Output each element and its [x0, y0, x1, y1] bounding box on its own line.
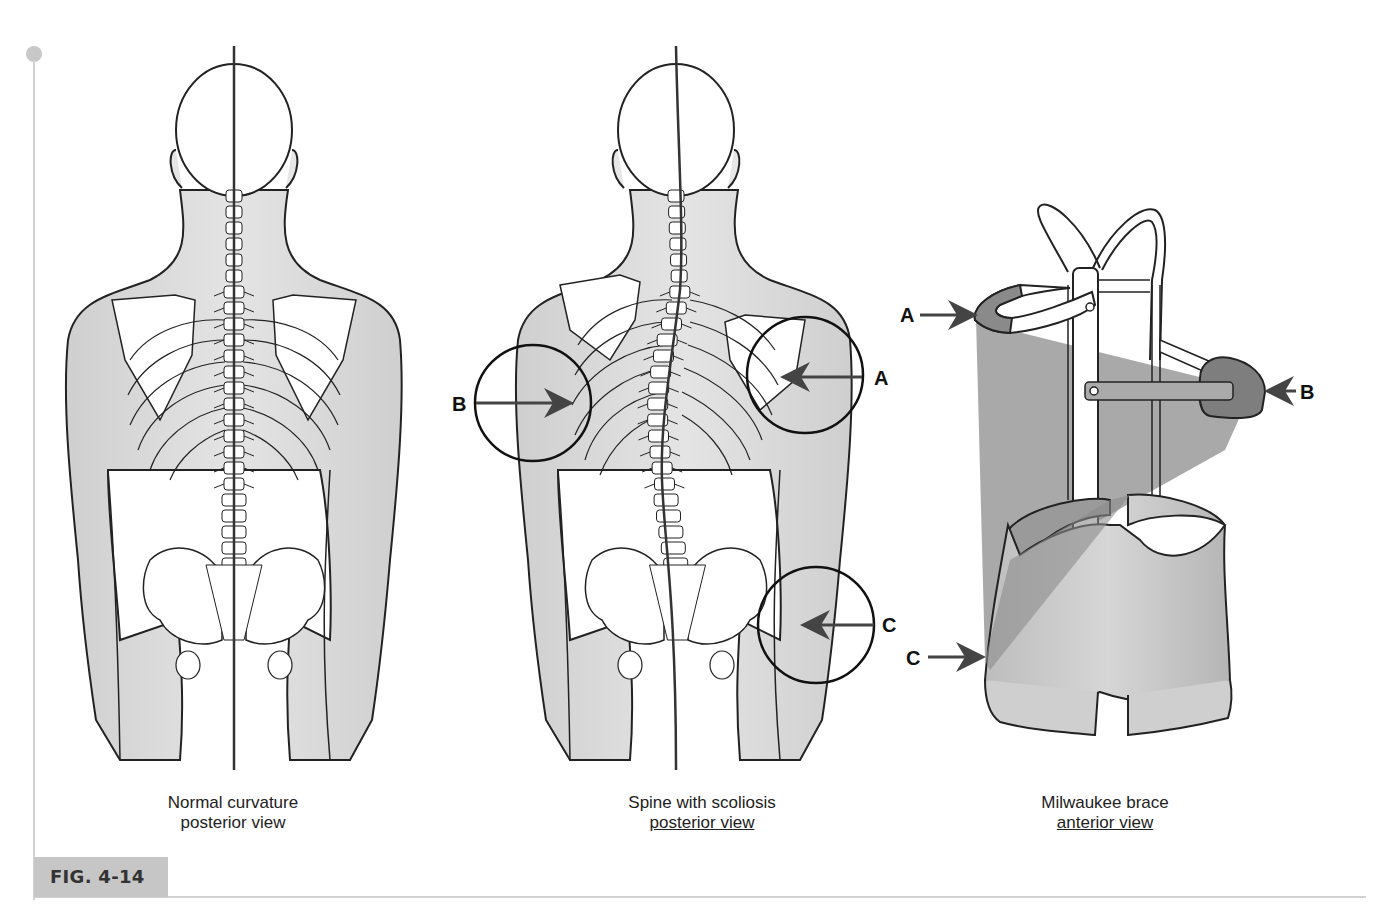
vertebra — [671, 254, 687, 266]
figure-number-label: FIG. 4-14 — [34, 857, 168, 897]
caption-scoliosis: Spine with scoliosis posterior view — [592, 793, 812, 833]
brace-label-c: C — [906, 647, 920, 669]
illustration-canvas: B A C — [0, 0, 1388, 916]
marker-label-c: C — [882, 614, 896, 636]
caption-normal: Normal curvature posterior view — [128, 793, 338, 833]
vertebra — [654, 478, 674, 490]
vertebra — [662, 318, 682, 330]
caption-brace: Milwaukee brace anterior view — [1000, 793, 1210, 833]
milwaukee-brace-figure: A B C — [900, 205, 1314, 735]
marker-label-b: B — [452, 393, 466, 415]
vertebra — [648, 430, 668, 442]
scoliosis-spine-figure: B A C — [452, 46, 896, 770]
caption-scoliosis-view: posterior view — [592, 813, 812, 833]
caption-brace-view: anterior view — [1000, 813, 1210, 833]
normal-spine-figure — [66, 46, 402, 770]
marker-label-a: A — [874, 367, 888, 389]
vertebra — [671, 270, 687, 282]
vertebra — [659, 526, 683, 538]
brace-label-b: B — [1300, 381, 1314, 403]
vertebra — [670, 238, 686, 250]
caption-normal-view: posterior view — [128, 813, 338, 833]
caption-normal-title: Normal curvature — [128, 793, 338, 813]
vertebra — [654, 494, 678, 506]
vertebra — [657, 510, 681, 522]
vertebra — [650, 446, 670, 458]
horizontal-bar — [1085, 382, 1233, 400]
caption-brace-title: Milwaukee brace — [1000, 793, 1210, 813]
brace-label-a: A — [900, 304, 914, 326]
vertebra — [669, 222, 685, 234]
vertebra — [661, 542, 685, 554]
caption-scoliosis-title: Spine with scoliosis — [592, 793, 812, 813]
